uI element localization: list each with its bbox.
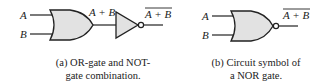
input-b-label: B xyxy=(202,29,209,41)
caption-a-line2: gate combination. xyxy=(38,69,168,81)
caption-b-line1: (b) Circuit symbol of xyxy=(196,56,316,69)
input-a-label: A xyxy=(19,9,27,21)
caption-a: (a) OR-gate and NOT- gate combination. xyxy=(38,56,168,81)
input-a-label: A xyxy=(201,10,209,22)
output-label: A + B xyxy=(282,9,309,21)
caption-a-line1: (a) OR-gate and NOT- xyxy=(38,56,168,69)
or-output-label: A + B xyxy=(88,6,115,18)
nor-gate-icon xyxy=(231,11,273,41)
or-gate-icon xyxy=(50,10,93,40)
caption-b: (b) Circuit symbol of a NOR gate. xyxy=(196,56,316,81)
not-gate-icon xyxy=(116,12,138,38)
caption-b-line2: a NOR gate. xyxy=(196,69,316,81)
inversion-bubble-icon xyxy=(273,23,278,28)
figure-a-or-not-combination: A B A + B A + B xyxy=(19,6,172,40)
inversion-bubble-icon xyxy=(138,22,143,27)
figure-b-nor-symbol: A B A + B xyxy=(201,9,310,41)
input-b-label: B xyxy=(20,28,27,40)
final-output-label: A + B xyxy=(144,8,171,20)
